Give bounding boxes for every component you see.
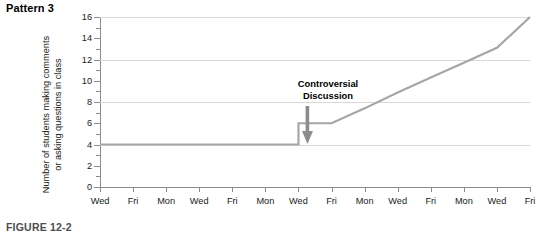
- x-axis-tick-label: Wed: [289, 196, 308, 206]
- y-axis-tick-label: 16: [82, 12, 92, 22]
- x-axis-tick: [199, 187, 200, 192]
- x-axis-tick-label: Fri: [425, 196, 436, 206]
- x-axis-tick: [232, 187, 233, 192]
- y-axis-tick-label: 2: [87, 161, 92, 171]
- y-axis-title: Number of students making comments or as…: [41, 15, 64, 215]
- x-axis-tick-label: Mon: [256, 196, 274, 206]
- x-axis-tick-label: Mon: [356, 196, 374, 206]
- x-axis-tick-label: Fri: [525, 196, 536, 206]
- y-axis-tick-label: 12: [82, 55, 92, 65]
- x-axis-tick: [332, 187, 333, 192]
- x-axis-tick-label: Mon: [455, 196, 473, 206]
- annotation-label: Controversial Discussion: [268, 78, 388, 101]
- x-axis-tick: [100, 187, 101, 192]
- x-axis-tick: [298, 187, 299, 192]
- x-axis-line: [100, 187, 531, 188]
- x-axis-tick-label: Wed: [388, 196, 407, 206]
- x-axis-tick: [398, 187, 399, 192]
- data-line-chart: [100, 17, 530, 187]
- figure-container: Pattern 3 Number of students making comm…: [0, 0, 551, 238]
- x-axis-tick-label: Wed: [91, 196, 110, 206]
- x-axis-tick: [431, 187, 432, 192]
- page-title: Pattern 3: [6, 2, 54, 14]
- x-axis-tick: [133, 187, 134, 192]
- plot-area: 0246810121416 WedFriMonWedFriMonWedFriMo…: [100, 17, 530, 187]
- x-axis-tick: [530, 187, 531, 192]
- y-axis-tick-label: 4: [87, 140, 92, 150]
- y-axis-tick-label: 10: [82, 76, 92, 86]
- figure-caption: FIGURE 12-2: [6, 221, 72, 233]
- x-axis-tick-label: Fri: [326, 196, 337, 206]
- x-axis-tick-label: Wed: [488, 196, 507, 206]
- x-axis-tick-label: Fri: [227, 196, 238, 206]
- x-axis-tick: [497, 187, 498, 192]
- y-axis-title-line2: or asking questions in class: [53, 15, 65, 215]
- y-axis-tick-label: 14: [82, 33, 92, 43]
- x-axis-tick-label: Fri: [128, 196, 139, 206]
- x-axis-tick-label: Mon: [157, 196, 175, 206]
- y-axis-tick-label: 8: [87, 97, 92, 107]
- annotation-line2: Discussion: [268, 90, 388, 102]
- y-axis-tick-label: 0: [87, 182, 92, 192]
- x-axis-tick: [166, 187, 167, 192]
- down-arrow-icon: [302, 106, 313, 144]
- y-axis-title-line1: Number of students making comments: [41, 15, 53, 215]
- x-axis-tick: [265, 187, 266, 192]
- x-axis-tick: [464, 187, 465, 192]
- y-axis-tick-label: 6: [87, 118, 92, 128]
- annotation-line1: Controversial: [268, 78, 388, 90]
- x-axis-tick-label: Wed: [190, 196, 209, 206]
- x-axis-tick: [365, 187, 366, 192]
